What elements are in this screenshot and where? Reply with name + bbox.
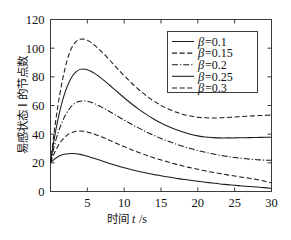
x-axis-title-unit: /s (139, 212, 147, 226)
x-tick-label-30: 30 (265, 196, 278, 210)
y-axis-title: 易感状态 I 的节点数 (16, 55, 30, 155)
x-axis-title: 时间 t /s (107, 212, 147, 226)
y-tick-label-40: 40 (32, 128, 45, 142)
line-chart: 51015202530 020406080100120 时间 t /s 易感状态… (0, 0, 291, 240)
y-tick-label-60: 60 (32, 99, 45, 113)
x-tick-label-25: 25 (228, 196, 241, 210)
legend-beta-symbol-5: β (197, 81, 205, 95)
chart-figure: 51015202530 020406080100120 时间 t /s 易感状态… (0, 0, 291, 240)
y-tick-label-0: 0 (38, 185, 44, 199)
x-tick-label-5: 5 (84, 196, 90, 210)
x-tick-label-10: 10 (118, 196, 131, 210)
x-tick-label-20: 20 (192, 196, 205, 210)
y-tick-label-120: 120 (26, 13, 45, 27)
y-tick-label-20: 20 (32, 156, 45, 170)
legend-label-5: =0.3 (205, 81, 227, 95)
legend: β=0.1β=0.15β=0.2β=0.25β=0.3 (168, 32, 258, 96)
y-tick-label-100: 100 (26, 42, 45, 56)
x-axis-title-cn: 时间 (107, 212, 129, 226)
y-tick-label-80: 80 (32, 70, 45, 84)
x-tick-label-15: 15 (155, 196, 168, 210)
